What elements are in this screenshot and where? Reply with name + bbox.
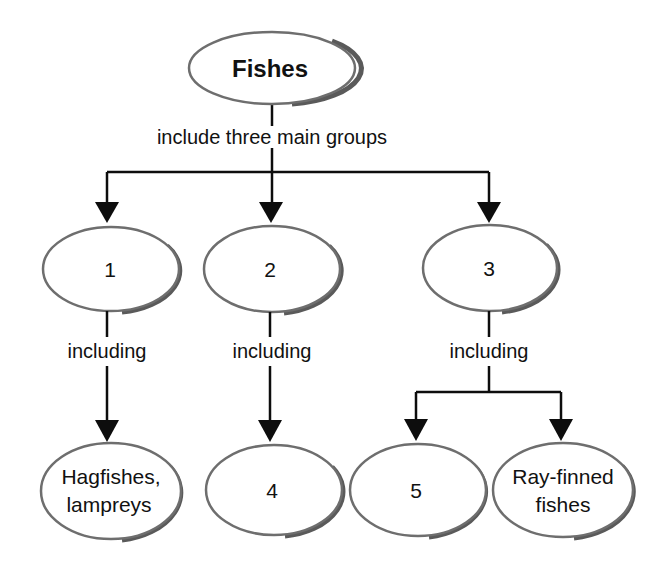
arrow-to-ray-finned [549,419,573,441]
arrow-to-leaf-5 [404,419,428,441]
group-2-link-label: including [233,340,312,362]
group-3-label: 3 [483,257,495,280]
arrow-to-group-2 [259,202,283,223]
group-1-label: 1 [104,258,116,281]
group-2-label: 2 [264,258,276,281]
leaf-node-4: 4 [206,445,343,536]
arrow-to-group-3 [477,202,501,223]
group-3-link-label: including [450,340,529,362]
arrow-to-group-1 [95,202,119,223]
hagfishes-label-line1: Hagfishes, [61,465,160,488]
ray-finned-label-line2: fishes [536,493,591,516]
hagfishes-label-line2: lampreys [66,493,151,516]
root-node-fishes: Fishes [189,32,361,104]
leaf-node-hagfishes-lampreys: Hagfishes, lampreys [41,443,181,540]
leaf-node-5: 5 [350,444,486,537]
arrow-to-leaf-4 [258,420,282,442]
root-link-label: include three main groups [157,126,387,148]
leaf-5-label: 5 [410,479,422,502]
leaf-4-label: 4 [266,479,278,502]
group-node-1: 1 [43,227,180,312]
group-1-link-label: including [68,340,147,362]
group-node-3: 3 [423,225,558,312]
group-node-2: 2 [204,226,341,313]
leaf-node-ray-finned-fishes: Ray-finned fishes [493,443,633,538]
arrow-to-hagfishes [95,420,119,442]
root-node-label: Fishes [232,55,308,82]
ray-finned-label-line1: Ray-finned [512,465,614,488]
concept-map: include three main groups Fishes 1 inclu… [0,0,664,567]
root-connector [95,104,501,223]
